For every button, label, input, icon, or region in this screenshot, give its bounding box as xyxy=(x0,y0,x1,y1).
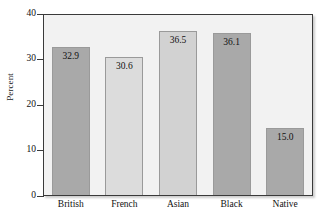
x-category-label-asian: Asian xyxy=(151,200,205,210)
y-tick-label-20: 20 xyxy=(10,100,36,110)
bar-chart-figure: Percent 40 30 20 10 0 32.9 30.6 36.5 36.… xyxy=(0,0,328,221)
bar-british: 32.9 xyxy=(52,47,90,195)
y-tick-label-40: 40 xyxy=(10,9,36,19)
x-category-label-french: French xyxy=(98,200,152,210)
y-tick-label-0: 0 xyxy=(10,191,36,201)
bar-value-label: 36.1 xyxy=(214,37,250,47)
x-category-label-native: Native xyxy=(258,200,312,210)
y-tick-label-30: 30 xyxy=(10,54,36,64)
bar-french: 30.6 xyxy=(105,57,143,195)
bar-value-label: 30.6 xyxy=(106,61,142,71)
bar-value-label: 32.9 xyxy=(53,51,89,61)
plot-area: 32.9 30.6 36.5 36.1 15.0 xyxy=(43,14,313,196)
bar-native: 15.0 xyxy=(266,128,304,196)
bar-value-label: 36.5 xyxy=(160,35,196,45)
y-tick-label-10: 10 xyxy=(10,145,36,155)
bar-value-label: 15.0 xyxy=(267,132,303,142)
x-category-label-british: British xyxy=(44,200,98,210)
bar-black: 36.1 xyxy=(213,33,251,195)
x-category-label-black: Black xyxy=(205,200,259,210)
y-tick-mark-0 xyxy=(37,196,44,197)
bar-asian: 36.5 xyxy=(159,31,197,195)
